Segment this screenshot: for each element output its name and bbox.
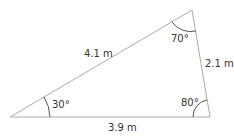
- angle-label-right: 80°: [181, 98, 199, 108]
- triangle-diagram: [0, 0, 234, 137]
- angle-arc-top: [172, 22, 196, 32]
- angle-arc-left: [44, 97, 50, 117]
- triangle-outline: [10, 10, 210, 117]
- angle-label-top: 70°: [171, 34, 189, 44]
- angle-label-left: 30°: [52, 100, 70, 110]
- side-label-right: 2.1 m: [205, 59, 234, 69]
- side-label-base: 3.9 m: [108, 123, 137, 133]
- side-label-hypotenuse: 4.1 m: [84, 49, 113, 59]
